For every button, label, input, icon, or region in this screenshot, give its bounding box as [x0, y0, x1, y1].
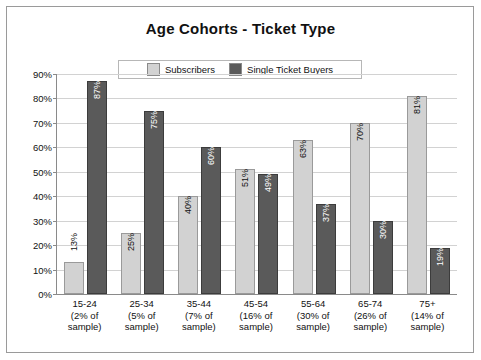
bar-group: 63%37% — [286, 74, 343, 294]
bar: 63% — [293, 140, 313, 294]
bar-value-label: 40% — [183, 196, 193, 214]
chart-title: Age Cohorts - Ticket Type — [0, 20, 481, 37]
bar-value-label: 25% — [126, 233, 136, 251]
y-axis-tick-label: 10% — [33, 264, 52, 275]
bar-value-label: 49% — [263, 174, 273, 192]
bar-group: 51%49% — [228, 74, 285, 294]
bar-value-label: 63% — [298, 140, 308, 158]
x-axis-label: 15-24 (2% of sample) — [56, 298, 113, 333]
bar: 51% — [235, 169, 255, 294]
bar: 30% — [373, 221, 393, 294]
x-axis-labels: 15-24 (2% of sample)25-34 (5% of sample)… — [56, 298, 456, 333]
bar: 70% — [350, 123, 370, 294]
y-axis-tick-label: 90% — [33, 69, 52, 80]
bar-value-label: 13% — [69, 233, 79, 251]
x-axis-label: 75+ (14% of sample) — [399, 298, 456, 333]
bar: 13% — [64, 262, 84, 294]
y-axis-tick — [53, 294, 57, 295]
chart-page: Age Cohorts - Ticket Type Subscribers Si… — [0, 0, 481, 360]
y-axis-tick-label: 70% — [33, 117, 52, 128]
y-axis-tick-label: 50% — [33, 166, 52, 177]
x-axis-label: 65-74 (26% of sample) — [342, 298, 399, 333]
bar-value-label: 81% — [412, 96, 422, 114]
bar-group: 70%30% — [343, 74, 400, 294]
bar: 19% — [430, 248, 450, 294]
bar-value-label: 60% — [206, 147, 216, 165]
y-axis-tick-label: 0% — [38, 289, 52, 300]
bar: 49% — [258, 174, 278, 294]
bar: 75% — [144, 111, 164, 294]
x-axis-label: 25-34 (5% of sample) — [113, 298, 170, 333]
bar-value-label: 75% — [149, 111, 159, 129]
bar-value-label: 37% — [321, 204, 331, 222]
bar: 40% — [178, 196, 198, 294]
bar-groups: 13%87%25%75%40%60%51%49%63%37%70%30%81%1… — [57, 74, 457, 294]
bar-value-label: 51% — [240, 169, 250, 187]
bar: 37% — [316, 204, 336, 294]
bar-group: 13%87% — [57, 74, 114, 294]
y-axis-tick-label: 30% — [33, 215, 52, 226]
bar: 25% — [121, 233, 141, 294]
x-axis-label: 45-54 (16% of sample) — [227, 298, 284, 333]
y-axis-tick-label: 80% — [33, 93, 52, 104]
x-axis-label: 35-44 (7% of sample) — [170, 298, 227, 333]
bar: 81% — [407, 96, 427, 294]
bar-value-label: 70% — [355, 123, 365, 141]
bar-value-label: 87% — [92, 81, 102, 99]
bar: 87% — [87, 81, 107, 294]
bar-value-label: 30% — [378, 221, 388, 239]
y-axis-tick-label: 60% — [33, 142, 52, 153]
bar-value-label: 19% — [435, 248, 445, 266]
bar-group: 25%75% — [114, 74, 171, 294]
plot-area: 0%10%20%30%40%50%60%70%80%90% 13%87%25%7… — [56, 74, 457, 295]
bar-group: 81%19% — [400, 74, 457, 294]
x-axis-label: 55-64 (30% of sample) — [285, 298, 342, 333]
bar-group: 40%60% — [171, 74, 228, 294]
y-axis-tick-label: 20% — [33, 240, 52, 251]
bar: 60% — [201, 147, 221, 294]
y-axis-tick-label: 40% — [33, 191, 52, 202]
